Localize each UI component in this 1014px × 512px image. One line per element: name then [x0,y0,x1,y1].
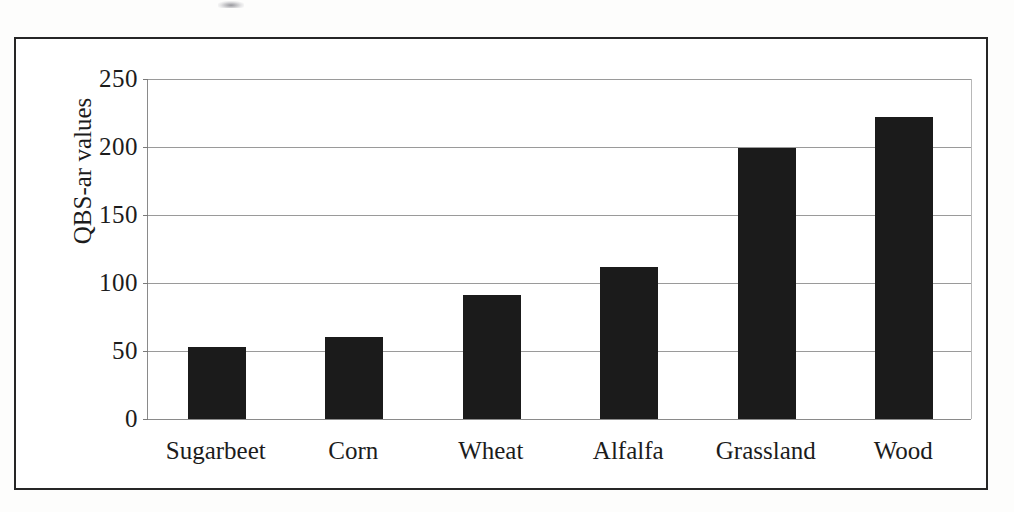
gridline [148,79,971,80]
bar [600,267,658,419]
x-axis-tick-label: Wheat [458,437,523,465]
x-axis-tick-label: Alfalfa [593,437,664,465]
plot-area [147,79,972,419]
gridline [148,215,971,216]
x-axis-tick-label: Grassland [716,437,816,465]
y-axis-tick-mark [143,351,148,352]
y-axis-tick-label: 100 [99,269,138,297]
bar [325,337,383,419]
y-axis-tick-label: 250 [99,65,138,93]
y-axis-tick-mark [143,147,148,148]
y-axis-tick-labels: 050100150200250 [62,79,138,419]
gridline [148,283,971,284]
figure-container: QBS-ar values 050100150200250 SugarbeetC… [0,0,1014,512]
y-axis-tick-mark [143,215,148,216]
x-axis-tick-label: Corn [328,437,378,465]
gridline [148,419,971,420]
x-axis-tick-labels: SugarbeetCornWheatAlfalfaGrasslandWood [147,437,972,477]
figure-border: QBS-ar values 050100150200250 SugarbeetC… [14,37,988,490]
scan-artifact [218,1,244,8]
y-axis-tick-mark [143,419,148,420]
y-axis-tick-label: 200 [99,133,138,161]
bar [875,117,933,419]
bar [463,295,521,419]
gridline [148,147,971,148]
y-axis-tick-label: 50 [112,337,138,365]
x-axis-tick-label: Sugarbeet [166,437,266,465]
y-axis-tick-label: 150 [99,201,138,229]
x-axis-tick-label: Wood [874,437,933,465]
y-axis-tick-mark [143,283,148,284]
gridline [148,351,971,352]
bar [188,347,246,419]
bar [738,148,796,419]
y-axis-tick-label: 0 [125,405,138,433]
y-axis-tick-mark [143,79,148,80]
